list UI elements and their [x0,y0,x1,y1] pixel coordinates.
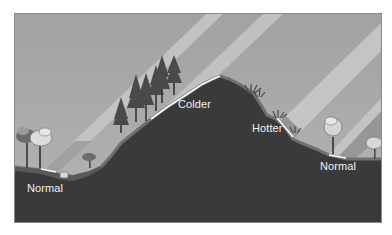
label-hotter-slope: Hotter [252,122,283,134]
hill-diagram [15,14,382,223]
label-left-valley-normal: Normal [27,182,63,194]
label-right-valley-normal: Normal [320,160,356,172]
puddle [60,172,68,178]
label-colder-slope: Colder [178,98,211,110]
diagram-frame [14,13,382,223]
